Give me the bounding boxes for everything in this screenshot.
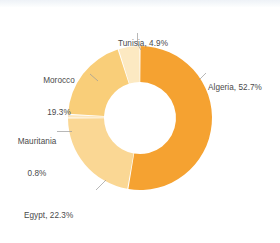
slice-label-tunisia-text: Tunisia, 4.9% bbox=[104, 39, 182, 50]
slice-label-algeria-text: Algeria, 52.7% bbox=[208, 83, 280, 94]
slice-label-algeria: Algeria, 52.7% bbox=[208, 62, 280, 115]
slice-label-mauritania-value: 0.8% bbox=[4, 169, 70, 180]
slice-label-mauritania-name: Mauritania bbox=[4, 137, 70, 148]
slice-label-egypt-text: Egypt, 22.3% bbox=[24, 211, 104, 222]
leader-line-algeria bbox=[199, 73, 206, 80]
slice-label-morocco-name: Morocco bbox=[28, 76, 90, 87]
chart-page: Tunisia, 4.9% Algeria, 52.7% Morocco 19.… bbox=[0, 0, 280, 243]
leader-line-egypt bbox=[96, 180, 106, 190]
slice-label-egypt: Egypt, 22.3% bbox=[24, 190, 104, 243]
slice-label-tunisia: Tunisia, 4.9% bbox=[104, 18, 182, 71]
slice-label-mauritania: Mauritania 0.8% bbox=[4, 116, 70, 200]
donut-chart: Tunisia, 4.9% Algeria, 52.7% Morocco 19.… bbox=[0, 0, 280, 243]
